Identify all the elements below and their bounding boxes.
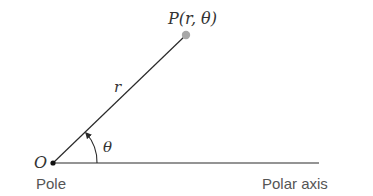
angle-label: θ — [103, 138, 112, 156]
point-p-label: P(r, θ) — [167, 9, 217, 28]
pole-letter: O — [34, 153, 47, 172]
radius-line — [53, 35, 186, 163]
point-p — [182, 31, 190, 39]
polar-axis-caption: Polar axis — [262, 175, 328, 192]
angle-arc — [86, 133, 97, 163]
radius-label: r — [114, 78, 122, 96]
pole-caption: Pole — [36, 175, 66, 192]
polar-coordinate-diagram: P(r, θ) r θ O Pole Polar axis — [0, 0, 373, 196]
pole-point — [50, 160, 55, 165]
